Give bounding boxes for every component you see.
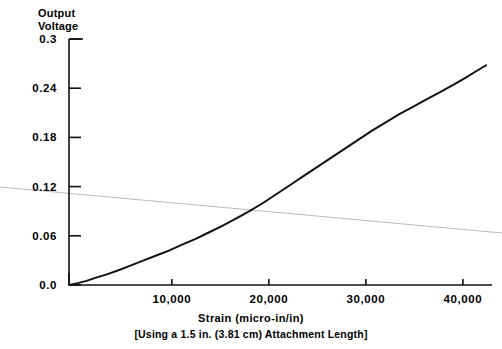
x-axis-title: Strain (micro-in/in)	[198, 312, 304, 324]
y-axis-title-line1: Output	[38, 7, 75, 19]
strain-output-voltage-chart: Output Voltage 0.00.060.120.180.240.3 10…	[0, 0, 502, 349]
y-tick-label-4: 0.24	[32, 82, 57, 94]
x-tick-label-3: 40,000	[444, 293, 483, 305]
x-axis-note: [Using a 1.5 in. (3.81 cm) Attachment Le…	[134, 328, 367, 340]
x-tick-label-2: 30,000	[346, 293, 385, 305]
y-tick-label-5: 0.3	[39, 33, 57, 45]
x-tick-label-1: 20,000	[249, 293, 288, 305]
y-tick-label-2: 0.12	[32, 181, 57, 193]
y-tick-label-3: 0.18	[32, 131, 57, 143]
y-tick-label-1: 0.06	[32, 230, 57, 242]
y-tick-label-0: 0.0	[39, 279, 57, 291]
x-tick-label-0: 10,000	[152, 293, 191, 305]
y-axis-title-line2: Voltage	[38, 20, 78, 32]
